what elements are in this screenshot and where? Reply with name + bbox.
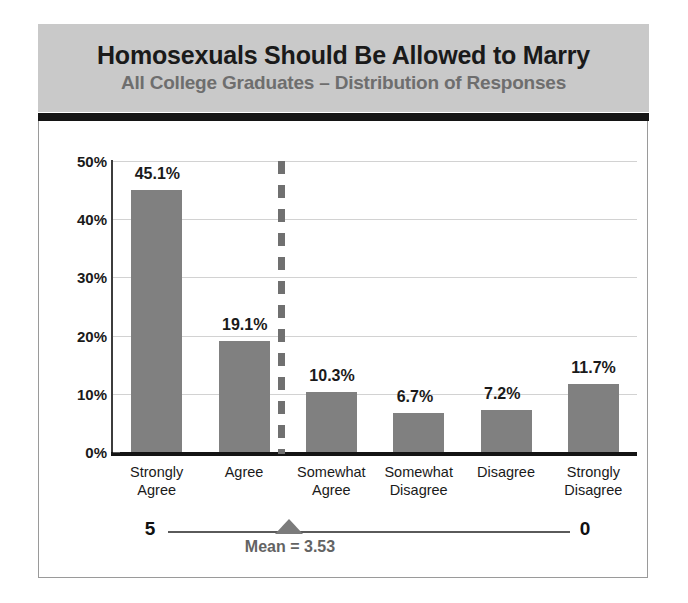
scale-right-label: 0 [573, 518, 597, 540]
mean-triangle-marker [275, 519, 303, 534]
scale-axis-line [168, 531, 570, 533]
scale-left-label: 5 [138, 518, 162, 540]
chart-page: Homosexuals Should Be Allowed to Marry A… [0, 0, 688, 603]
mean-label: Mean = 3.53 [200, 538, 380, 556]
response-scale: 5 0 Mean = 3.53 [0, 0, 688, 603]
